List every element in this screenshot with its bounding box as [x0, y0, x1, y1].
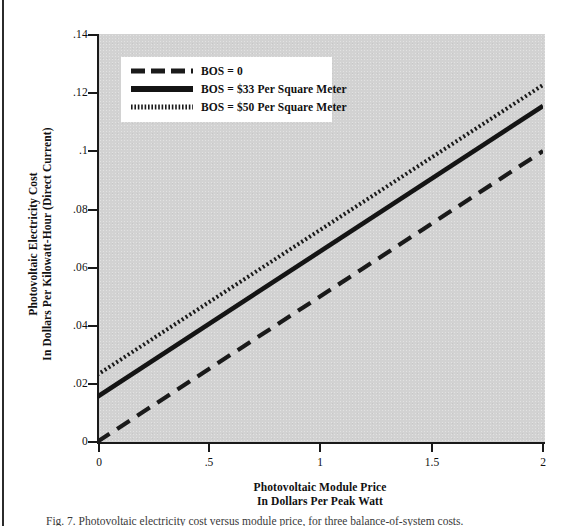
x-tick-2 — [542, 443, 544, 452]
figure-caption: Fig. 7. Photovoltaic electricity cost ve… — [28, 514, 558, 526]
y-tick-014 — [88, 34, 97, 36]
legend-swatch-solid-icon — [131, 83, 193, 95]
page-edge-rule — [2, 0, 4, 526]
y-axis-title-line2: In Dollars Per Kilowatt-Hour (Direct Cur… — [40, 44, 54, 444]
legend-label-bos-33: BOS = $33 Per Square Meter — [201, 83, 347, 95]
y-tick-002 — [88, 383, 97, 385]
y-tick-label-014: .14 — [48, 29, 88, 41]
y-axis-title-line1: Photovoltaic Electricity Cost — [26, 44, 40, 444]
y-tick-label-004: .04 — [48, 320, 88, 332]
y-tick-004 — [88, 325, 97, 327]
y-tick-label-012: .12 — [48, 87, 88, 99]
y-tick-008 — [88, 209, 97, 211]
series-line-bos-50 — [97, 85, 543, 375]
x-axis-title-line1: Photovoltaic Module Price — [97, 481, 543, 495]
figure-container: 0 .02 .04 .06 .08 .1 .12 .14 0 .5 1 1.5 … — [0, 0, 575, 526]
legend-item-bos-33: BOS = $33 Per Square Meter — [131, 80, 347, 98]
series-line-bos-33 — [97, 106, 543, 397]
x-axis-title: Photovoltaic Module Price In Dollars Per… — [97, 481, 543, 508]
legend-swatch-dotted-icon — [131, 101, 193, 113]
x-axis-title-line2: In Dollars Per Peak Watt — [97, 495, 543, 509]
series-line-bos-0 — [97, 151, 543, 442]
x-tick-1 — [319, 443, 321, 452]
y-tick-006 — [88, 267, 97, 269]
y-tick-01 — [88, 150, 97, 152]
legend-item-bos-0: BOS = 0 — [131, 62, 243, 80]
y-tick-label-002: .02 — [48, 378, 88, 390]
x-tick-15 — [431, 443, 433, 452]
legend-label-bos-50: BOS = $50 Per Square Meter — [201, 101, 347, 113]
x-tick-label-0: 0 — [79, 456, 119, 468]
y-tick-label-008: .08 — [48, 204, 88, 216]
y-tick-label-006: .06 — [48, 262, 88, 274]
x-tick-label-1: 1 — [300, 456, 340, 468]
legend-item-bos-50: BOS = $50 Per Square Meter — [131, 98, 347, 116]
y-axis-title: Photovoltaic Electricity Cost In Dollars… — [26, 44, 54, 444]
y-tick-012 — [88, 92, 97, 94]
y-tick-label-01: .1 — [48, 145, 88, 157]
x-tick-05 — [208, 443, 210, 452]
legend-swatch-dashed-icon — [131, 65, 193, 77]
y-tick-0 — [88, 441, 97, 443]
legend-label-bos-0: BOS = 0 — [201, 65, 243, 77]
y-tick-label-0: 0 — [48, 436, 88, 448]
x-tick-label-2: 2 — [523, 456, 563, 468]
chart-legend: BOS = 0 BOS = $33 Per Square Meter BOS =… — [121, 57, 332, 122]
x-tick-label-05: .5 — [189, 456, 229, 468]
x-tick-label-15: 1.5 — [412, 456, 452, 468]
x-tick-0 — [98, 443, 100, 452]
